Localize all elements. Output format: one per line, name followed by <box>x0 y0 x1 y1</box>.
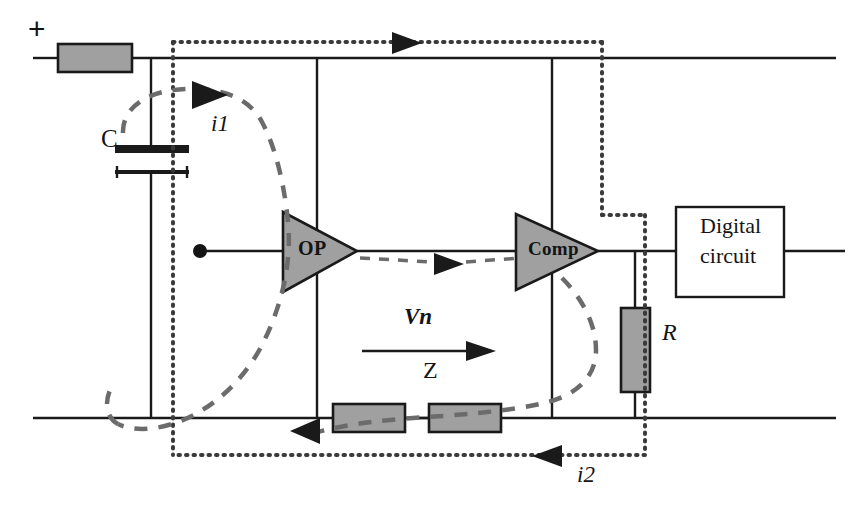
dashed-i1-path <box>118 89 289 429</box>
capacitor-label: C <box>101 126 118 151</box>
capacitor-c <box>115 145 189 178</box>
dashed-loop-i1 <box>107 89 289 429</box>
input-node-dot <box>193 244 207 258</box>
voltage-vn-label: Vn <box>404 305 432 328</box>
dotted-top-arrow <box>392 32 422 54</box>
dotted-bottom-arrow <box>532 445 562 467</box>
capacitor-bottom-plate <box>115 170 189 174</box>
op-amp-label: OP <box>298 238 327 258</box>
vn-arrow-head <box>466 341 496 361</box>
impedance-z-label: Z <box>423 358 438 382</box>
digital-circuit-label-line1: Digital <box>700 215 761 237</box>
op-output-arrow <box>434 253 464 275</box>
series-resistor-top <box>58 44 132 72</box>
current-i2-label: i2 <box>577 463 595 486</box>
supply-plus-label: + <box>28 14 46 44</box>
i2-arrow-left <box>290 418 320 444</box>
current-i1-label: i1 <box>211 112 229 135</box>
op-output-dash-path <box>360 258 432 262</box>
comparator-label: Comp <box>528 239 579 258</box>
comp-input-dash-path <box>466 258 520 262</box>
capacitor-top-plate <box>115 145 189 153</box>
digital-circuit-label-line2: circuit <box>700 245 756 267</box>
resistor-r-label: R <box>662 320 677 344</box>
i1-arrow <box>192 81 228 109</box>
circuit-diagram: + C i1 Vn Z R i2 OP Comp Digital circuit <box>0 0 864 515</box>
